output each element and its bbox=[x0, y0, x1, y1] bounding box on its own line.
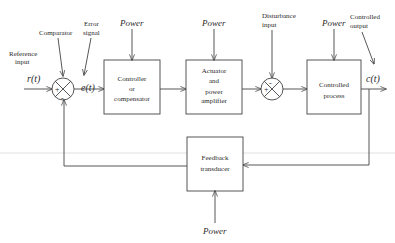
actuator-power-label: Power bbox=[201, 18, 226, 28]
process-text-2: process bbox=[324, 92, 345, 100]
block-diagram: Reference input r(t) Comparator Error si… bbox=[0, 0, 395, 243]
controlled-process-block: Controlled process bbox=[307, 60, 361, 114]
feedback-text-2: transducer bbox=[200, 165, 230, 173]
disturbance-label-2: input bbox=[262, 21, 276, 29]
disturbance-plus-sign: + bbox=[264, 85, 269, 94]
process-power-label: Power bbox=[321, 18, 346, 28]
reference-signal-label: r(t) bbox=[27, 73, 41, 85]
comparator-label: Comparator bbox=[39, 29, 73, 37]
feedback-transducer-block: Feedback transducer bbox=[187, 137, 243, 191]
disturbance-minus-sign: - bbox=[269, 79, 272, 88]
output-pointer-arrow bbox=[362, 32, 374, 64]
controller-power-label: Power bbox=[119, 18, 144, 28]
comparator-plus-sign: + bbox=[55, 85, 60, 94]
error-signal-label-2: signal bbox=[83, 29, 100, 37]
controller-text-1: Controller bbox=[118, 75, 147, 83]
controlled-output-label-1: Controlled bbox=[350, 13, 380, 21]
feedback-power-label: Power bbox=[202, 226, 227, 236]
error-signal-symbol: e(t) bbox=[81, 82, 96, 94]
actuator-text-2: and bbox=[209, 77, 220, 85]
controller-block: Controller or compensator bbox=[104, 60, 160, 114]
process-text-1: Controlled bbox=[319, 81, 349, 89]
feedback-text-1: Feedback bbox=[202, 154, 229, 162]
comparator-pointer-arrow bbox=[58, 38, 63, 76]
disturbance-junction: - + bbox=[261, 78, 283, 100]
output-signal-symbol: c(t) bbox=[366, 73, 381, 85]
actuator-text-1: Actuator bbox=[202, 67, 227, 75]
actuator-text-4: amplifier bbox=[201, 97, 227, 105]
comparator-junction: + - bbox=[52, 78, 74, 103]
controller-text-2: or bbox=[129, 85, 136, 93]
controller-text-3: compensator bbox=[114, 95, 150, 103]
disturbance-label-1: Disturbance bbox=[262, 12, 296, 20]
actuator-block: Actuator and power amplifier bbox=[186, 60, 242, 114]
reference-input-label-2: input bbox=[15, 58, 29, 66]
reference-input-label-1: Reference bbox=[9, 50, 37, 58]
actuator-text-3: power bbox=[205, 88, 223, 96]
controlled-output-label-2: output bbox=[350, 22, 368, 30]
error-signal-label-1: Error bbox=[84, 20, 99, 28]
error-pointer-arrow bbox=[84, 38, 91, 75]
